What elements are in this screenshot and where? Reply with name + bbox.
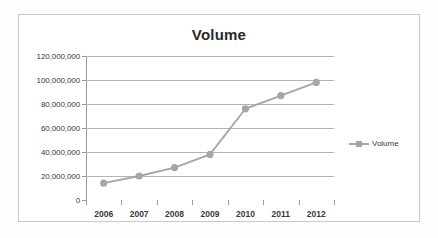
plot-area: 020,000,00040,000,00060,000,00080,000,00… [86, 56, 334, 200]
y-axis-tick-label: 80,000,000 [41, 100, 80, 109]
x-axis-tick-label: 2011 [272, 209, 290, 219]
x-axis-tick [299, 200, 300, 205]
series-line [104, 82, 317, 183]
legend-item-volume: Volume [372, 139, 399, 148]
x-axis-tick-label: 2007 [130, 209, 149, 219]
data-point-marker [313, 79, 320, 86]
data-point-marker [206, 151, 213, 158]
chart-title: Volume [19, 26, 419, 43]
x-axis-tick [192, 200, 193, 205]
x-axis-tick [228, 200, 229, 205]
x-axis-tick-label: 2012 [307, 209, 326, 219]
y-axis-tick-label: 20,000,000 [41, 172, 80, 181]
x-axis-tick [121, 200, 122, 205]
x-axis-tick [157, 200, 158, 205]
y-axis-tick-label: 120,000,000 [37, 52, 80, 61]
chart-frame: Volume 020,000,00040,000,00060,000,00080… [18, 14, 420, 222]
scanned-page-background: Volume 020,000,00040,000,00060,000,00080… [0, 0, 438, 238]
x-axis-tick-label: 2009 [201, 209, 220, 219]
legend: Volume [349, 139, 399, 148]
x-axis-tick-label: 2010 [236, 209, 255, 219]
x-axis-tick [334, 200, 335, 205]
data-point-marker [100, 180, 107, 187]
y-axis-tick-label: 0 [76, 196, 80, 205]
data-point-marker [136, 172, 143, 179]
x-axis-tick-label: 2006 [94, 209, 113, 219]
data-point-marker [171, 164, 178, 171]
data-point-marker [277, 92, 284, 99]
y-axis-tick-label: 40,000,000 [41, 148, 80, 157]
x-axis-tick-label: 2008 [165, 209, 184, 219]
y-axis-tick-label: 100,000,000 [37, 76, 80, 85]
line-square-marker-icon [349, 139, 369, 148]
data-point-marker [242, 105, 249, 112]
y-axis-tick-label: 60,000,000 [41, 124, 80, 133]
x-axis-tick [263, 200, 264, 205]
x-axis-tick [86, 200, 87, 205]
series-volume [86, 56, 334, 200]
